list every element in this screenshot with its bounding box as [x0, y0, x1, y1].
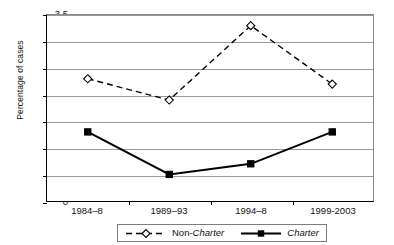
marker-filled-square: [248, 161, 254, 167]
legend-label-2: Charter: [287, 228, 319, 238]
chart-legend: Non-CharterCharter: [117, 224, 327, 242]
y-axis-title: Percentage of cases: [15, 0, 25, 160]
x-tick-label: 1994–8: [235, 206, 267, 216]
x-tick-mark: [211, 201, 212, 205]
marker-filled-square: [329, 129, 335, 135]
legend-label-prefix: Non-: [172, 227, 193, 238]
marker-open-diamond: [84, 75, 92, 83]
x-tick-mark: [293, 201, 294, 205]
x-tick-label: 1989–93: [151, 206, 188, 216]
legend-marker-filled-square: [258, 230, 264, 236]
legend-label-italic: Charter: [287, 227, 319, 238]
legend-entry-1: Non-Charter: [125, 228, 224, 239]
legend-swatch-2: [240, 228, 282, 239]
legend-label-italic: Charter: [193, 227, 225, 238]
series-layer: [47, 15, 373, 201]
plot-area: [46, 14, 374, 202]
marker-open-diamond: [165, 96, 173, 104]
series-1: [84, 22, 337, 105]
line-chart: Percentage of cases 3.532.521.510.50 198…: [0, 0, 394, 245]
x-tick-label: 1999-2003: [310, 206, 355, 216]
series-line: [88, 26, 333, 100]
marker-filled-square: [85, 129, 91, 135]
legend-swatch-1: [125, 228, 167, 239]
legend-entry-2: Charter: [240, 228, 319, 239]
series-line: [88, 132, 333, 175]
legend-label-1: Non-Charter: [172, 228, 224, 238]
y-tick-mark: [43, 203, 47, 204]
x-tick-mark: [129, 201, 130, 205]
legend-marker-open-diamond: [142, 229, 150, 237]
marker-filled-square: [166, 171, 172, 177]
series-2: [85, 129, 336, 178]
x-tick-label: 1984–8: [71, 206, 103, 216]
